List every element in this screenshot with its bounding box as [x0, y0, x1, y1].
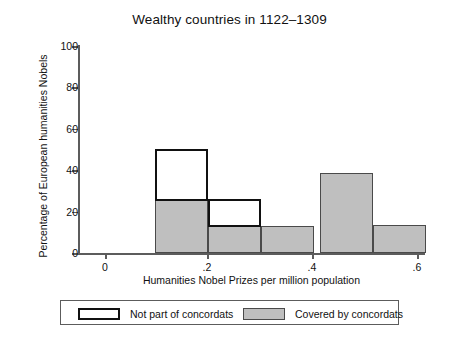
chart-legend: Not part of concordats Covered by concor…	[60, 300, 399, 325]
bar-notpart-bin1	[155, 149, 208, 201]
plot-area: Percentage of European humanities Nobels…	[0, 0, 459, 338]
y-tick-label: 100	[50, 40, 78, 52]
legend-entry-covered: Covered by concordats	[243, 301, 403, 326]
bar-covered-bin2	[208, 226, 261, 253]
x-tick-label: .4	[297, 261, 327, 273]
x-tick-label: 0	[90, 261, 120, 273]
bar-covered-bin1	[155, 200, 208, 253]
x-tick-label: .6	[402, 261, 432, 273]
x-axis-label: Humanities Nobel Prizes per million popu…	[78, 274, 425, 286]
bar-covered-bin4	[320, 173, 373, 253]
y-tick-label: 0	[50, 247, 78, 259]
y-tick-label: 20	[50, 206, 78, 218]
legend-swatch-white-outline-icon	[78, 308, 120, 320]
x-tick-mark	[105, 253, 107, 259]
legend-entry-not-part: Not part of concordats	[78, 301, 233, 326]
y-axis-line	[78, 45, 80, 254]
chart-figure: Wealthy countries in 1122–1309 Percentag…	[0, 0, 459, 338]
x-tick-mark	[417, 253, 419, 259]
bar-notpart-bin2	[208, 199, 261, 227]
y-axis-label: Percentage of European humanities Nobels	[37, 41, 49, 271]
x-tick-label: .2	[192, 261, 222, 273]
legend-label: Covered by concordats	[295, 308, 403, 320]
x-tick-mark	[207, 253, 209, 259]
y-tick-label: 60	[50, 123, 78, 135]
bar-covered-bin5	[373, 225, 426, 253]
y-tick-label: 80	[50, 81, 78, 93]
legend-swatch-gray-fill-icon	[243, 308, 285, 320]
legend-label: Not part of concordats	[130, 308, 233, 320]
bar-covered-bin3	[261, 226, 314, 253]
y-tick-label: 40	[50, 164, 78, 176]
x-axis-line	[78, 253, 425, 255]
x-tick-mark	[312, 253, 314, 259]
